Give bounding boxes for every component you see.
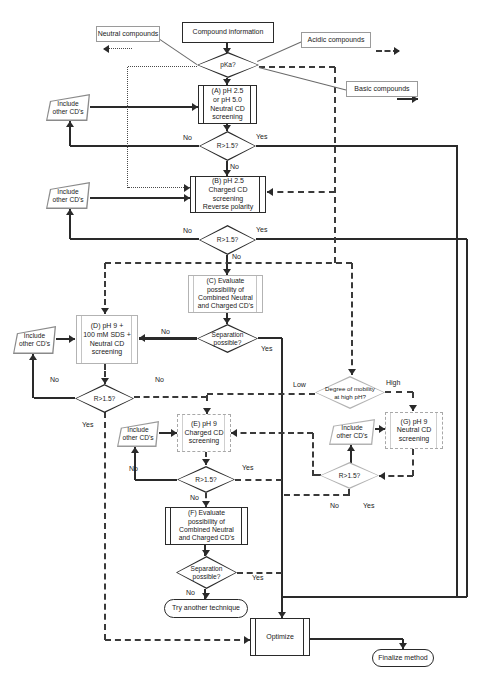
- flow-line-dashed: [312, 433, 314, 476]
- arrowhead: [379, 472, 385, 480]
- node-label: pKa?: [197, 52, 259, 78]
- decision-r15-d: R>1.5?: [75, 384, 134, 413]
- arrowhead: [348, 369, 356, 375]
- node-label: Compound information: [193, 28, 264, 37]
- arrowhead: [139, 334, 145, 342]
- arrowhead: [131, 447, 139, 453]
- flow-line: [466, 239, 468, 597]
- edge-label-no: No: [161, 328, 170, 335]
- node-include-other-cds-1: Include other CD's: [46, 94, 90, 121]
- flow-line: [70, 238, 199, 240]
- flow-line: [90, 106, 198, 108]
- flow-line-dashed: [235, 479, 282, 481]
- arrowhead: [69, 335, 75, 343]
- arrowhead: [103, 45, 109, 53]
- node-label: (A) pH 2.5 or pH 5.0 Neutral CD screenin…: [210, 87, 245, 121]
- edge-label-yes: Yes: [242, 464, 253, 471]
- flow-line-dashed: [105, 262, 352, 264]
- node-optimize: Optimize: [250, 618, 310, 656]
- edge-label-yes: Yes: [252, 574, 263, 581]
- flow-line-dotted: [127, 67, 128, 188]
- node-include-other-cds-3: Include other CD's: [13, 326, 56, 354]
- node-screening-d: (D) pH 9 + 100 mM SDS + Neutral CD scree…: [76, 315, 138, 364]
- edge-label-no: No: [232, 253, 241, 260]
- node-label: Try another technique: [172, 604, 240, 613]
- decision-r15-2: R>1.5?: [199, 225, 256, 255]
- node-include-other-cds-4: Include other CD's: [117, 421, 159, 447]
- node-label: Basic compounds: [354, 85, 409, 94]
- node-label: (F) Evaluate possibility of Combined Neu…: [179, 509, 235, 542]
- node-finalize-method: Finalize method: [372, 649, 434, 667]
- node-label: (B) pH 2.5 Charged CD screening Reverse …: [203, 177, 254, 211]
- node-label: Finalize method: [378, 654, 427, 663]
- node-acidic-compounds: Acidic compounds: [301, 32, 371, 48]
- node-neutral-compounds: Neutral compounds: [96, 26, 160, 42]
- edge-label-yes: Yes: [256, 133, 267, 140]
- arrowhead: [101, 308, 109, 314]
- edge-label-no: No: [190, 494, 199, 501]
- node-label: (E) pH 9 Charged CD screening: [185, 420, 224, 446]
- node-label: R>1.5?: [177, 466, 235, 493]
- flow-line: [32, 354, 34, 398]
- decision-r15-right: R>1.5?: [320, 462, 379, 489]
- edge-label-no: No: [186, 589, 195, 596]
- flow-line: [135, 479, 177, 481]
- flow-line-dashed: [134, 396, 207, 398]
- flow-line-dotted: [128, 187, 190, 188]
- flow-line-dashed: [104, 412, 106, 640]
- node-label: Separation possible?: [197, 324, 258, 353]
- edge-label-no: No: [230, 163, 239, 170]
- edge-label-no: No: [129, 465, 138, 472]
- flow-line-diagonal: [257, 41, 301, 61]
- flow-line-dashed: [259, 66, 335, 68]
- arrowhead: [202, 459, 210, 465]
- node-label: R>1.5?: [199, 225, 256, 255]
- arrowhead: [394, 47, 400, 55]
- flow-line: [456, 145, 458, 597]
- edge-label-low: Low: [293, 381, 306, 388]
- flow-line-dashed: [351, 263, 353, 375]
- node-label: Include other CD's: [13, 326, 56, 354]
- flowchart-canvas: Compound information Neutral compounds A…: [0, 0, 484, 682]
- edge-label-yes: Yes: [82, 421, 93, 428]
- node-include-other-cds-2: Include other CD's: [46, 182, 90, 209]
- node-include-other-cds-5: Include other CD's: [329, 419, 375, 445]
- edge-label-yes: Yes: [256, 226, 267, 233]
- node-screening-a: (A) pH 2.5 or pH 5.0 Neutral CD screenin…: [198, 85, 257, 124]
- edge-label-no: No: [50, 376, 59, 383]
- node-label: Include other CD's: [46, 182, 90, 209]
- flow-line: [281, 338, 283, 618]
- edge-label-no: No: [155, 376, 164, 383]
- edge-label-high: High: [386, 379, 400, 386]
- arrowhead: [409, 405, 417, 411]
- edge-label-no: No: [330, 502, 339, 509]
- flow-line: [90, 197, 190, 199]
- node-screening-b: (B) pH 2.5 Charged CD screening Reverse …: [190, 176, 266, 213]
- arrowhead: [66, 209, 74, 215]
- node-label: Include other CD's: [117, 421, 159, 447]
- node-try-another-technique: Try another technique: [164, 599, 248, 618]
- flow-line: [70, 145, 199, 147]
- node-basic-compounds: Basic compounds: [346, 81, 418, 97]
- edge-label-yes: Yes: [363, 502, 374, 509]
- flow-line-dashed: [105, 639, 250, 641]
- flow-line: [282, 596, 467, 598]
- node-label: Optimize: [266, 633, 294, 642]
- flow-line: [310, 638, 403, 640]
- arrowhead: [66, 121, 74, 127]
- flow-line-dashed: [412, 449, 414, 476]
- node-label: (G) pH 9 Neutral CD screening: [397, 418, 432, 444]
- node-evaluate-f: (F) Evaluate possibility of Combined Neu…: [165, 507, 248, 545]
- decision-mobility: Degree of mobility at high pH?: [315, 376, 385, 409]
- decision-separation-1: Separation possible?: [197, 324, 258, 353]
- node-label: Include other CD's: [329, 419, 375, 445]
- node-label: Acidic compounds: [308, 36, 365, 45]
- node-screening-e: (E) pH 9 Charged CD screening: [177, 414, 231, 452]
- arrowhead: [29, 354, 37, 360]
- flow-line-dashed: [385, 391, 413, 393]
- flow-line: [139, 337, 197, 340]
- flow-line-dotted: [128, 66, 197, 67]
- decision-r15-1: R>1.5?: [199, 131, 256, 161]
- flow-line: [258, 337, 282, 339]
- arrowhead: [267, 188, 273, 196]
